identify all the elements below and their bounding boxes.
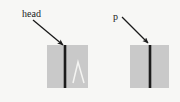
figure-illustration: head p (0, 0, 180, 102)
figure-container: head p (0, 0, 180, 102)
right-panel-group (130, 45, 169, 88)
right-panel-divider-line (149, 45, 152, 88)
head-label: head (22, 8, 41, 19)
left-panel-divider-line (64, 45, 67, 88)
left-panel-box (47, 45, 88, 88)
p-label: p (113, 11, 118, 22)
left-panel-group (47, 45, 88, 88)
